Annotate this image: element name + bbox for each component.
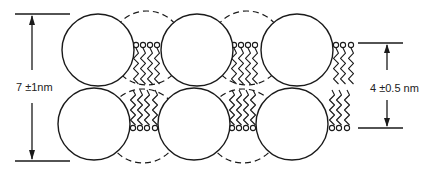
lipid-tail — [148, 48, 153, 84]
lipid-tail — [155, 48, 160, 84]
lipid-head-icon — [236, 125, 241, 130]
lipid-head-icon — [140, 42, 145, 47]
protein-globule-circle — [161, 14, 233, 86]
lipid-tail — [131, 90, 136, 125]
lipid-tail — [138, 90, 143, 125]
lipid-tail — [253, 48, 258, 84]
lipid-tail — [334, 48, 339, 84]
lipid-tail — [345, 90, 350, 125]
lipid-head-icon — [348, 42, 353, 47]
lipid-tail — [246, 48, 251, 84]
lipid-head-icon — [340, 42, 345, 47]
lipid-tail — [251, 90, 256, 125]
lipid-head-icon — [344, 125, 349, 130]
lipid-head-icon — [154, 42, 159, 47]
lipid-head-icon — [152, 125, 157, 130]
lipid-head-icon — [333, 42, 338, 47]
bilayer-thickness-label: 4 ±0.5 nm — [370, 81, 419, 95]
membrane-diagram — [0, 0, 425, 170]
lipid-tail — [244, 90, 249, 125]
lipid-head-icon — [137, 125, 142, 130]
arrow-down-icon — [384, 118, 390, 127]
lipid-head-icon — [144, 125, 149, 130]
protein-globule-circle — [62, 14, 134, 86]
lipid-tail — [153, 90, 158, 125]
lipid-head-icon — [243, 125, 248, 130]
lipid-tail — [341, 48, 346, 84]
lipid-tail — [337, 90, 342, 125]
lipid-tail — [349, 48, 354, 84]
protein-globule-circle — [256, 88, 328, 160]
protein-globules — [58, 14, 333, 160]
arrow-up-icon — [29, 15, 35, 25]
lipid-head-icon — [245, 42, 250, 47]
lipid-head-icon — [252, 42, 257, 47]
lipid-tail — [237, 90, 242, 125]
total-thickness-label: 7 ±1nm — [16, 80, 53, 94]
lipid-head-icon — [147, 42, 152, 47]
arrow-up-icon — [384, 44, 390, 53]
lipid-head-icon — [336, 125, 341, 130]
arrow-down-icon — [29, 150, 35, 160]
lipid-head-icon — [130, 125, 135, 130]
lipid-tail — [239, 48, 244, 84]
lipid-head-icon — [250, 125, 255, 130]
lipid-tail — [145, 90, 150, 125]
protein-globule-circle — [261, 14, 333, 86]
lipid-head-icon — [329, 125, 334, 130]
lipid-tail — [141, 48, 146, 84]
lipid-tail — [330, 90, 335, 125]
protein-globule-circle — [158, 88, 230, 160]
lipid-head-icon — [238, 42, 243, 47]
protein-globule-circle — [58, 88, 130, 160]
